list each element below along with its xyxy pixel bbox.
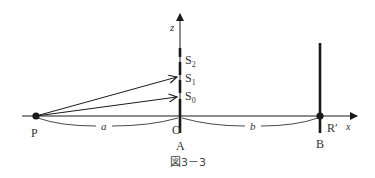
ray-to-s0	[36, 97, 177, 116]
distance-label-a: a	[101, 120, 107, 132]
young-slit-diagram: z S2 S1 S0 P a O A b R′ x B 図3－3	[0, 0, 375, 178]
slit-label-s1: S1	[185, 71, 196, 87]
z-axis-label: z	[169, 21, 175, 33]
figure-caption: 図3－3	[170, 156, 206, 169]
x-axis-label: x	[345, 121, 351, 132]
screen-point-label-r-prime: R′	[327, 121, 338, 135]
slit-label-s2: S2	[185, 53, 196, 69]
screen-label-b: B	[316, 137, 324, 151]
origin-label-o: O	[172, 123, 181, 137]
distance-brace-a	[38, 118, 178, 126]
distance-label-b: b	[250, 120, 256, 132]
source-label-p: P	[31, 126, 38, 140]
slit-plate-label-a: A	[176, 139, 185, 153]
slit-label-s0: S0	[185, 89, 196, 105]
ray-to-s1	[36, 77, 177, 116]
